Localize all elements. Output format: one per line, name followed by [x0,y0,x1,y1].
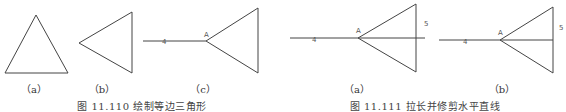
triangle-c [206,8,258,73]
figure-caption: 图 11.111 拉长并修剪水平直线 [350,98,500,112]
triangle-a [5,15,68,73]
subfigure-label: （a） [21,81,47,96]
subfigure-label: （b） [489,81,515,96]
point-label: 5 [559,24,563,32]
point-label: 4 [162,38,166,46]
diagram-canvas [0,0,566,112]
subfigure-label: （c） [190,81,216,96]
subfigure-label: （b） [89,81,115,96]
point-label: 4 [312,36,316,44]
point-label: 4 [463,38,467,46]
point-label: A [204,31,209,39]
point-label: A [498,29,503,37]
triangle-b [79,12,132,73]
point-label: A [356,27,361,35]
subfigure-label: （a） [344,81,370,96]
figure-caption: 图 11.110 绘制等边三角形 [77,98,206,112]
point-label: 5 [424,20,428,28]
